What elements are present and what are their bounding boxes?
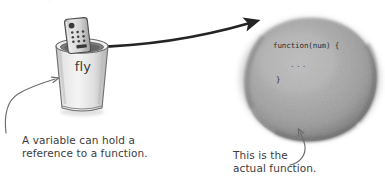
caption-actual-function: This is the actual function. bbox=[233, 149, 317, 175]
diagram-canvas: . bbox=[0, 0, 385, 183]
remote-control-icon bbox=[65, 18, 91, 54]
function-signature-text: function(num) { bbox=[273, 41, 339, 50]
variable-name-label: fly bbox=[61, 59, 105, 74]
reference-arrow bbox=[90, 23, 250, 47]
function-closing-brace-text: } bbox=[276, 75, 280, 84]
function-body-text: ... bbox=[290, 60, 308, 69]
function-blob bbox=[240, 18, 380, 141]
caption-variable-reference: A variable can hold a reference to a fun… bbox=[22, 134, 148, 160]
caption-pointer-left bbox=[5, 79, 55, 133]
